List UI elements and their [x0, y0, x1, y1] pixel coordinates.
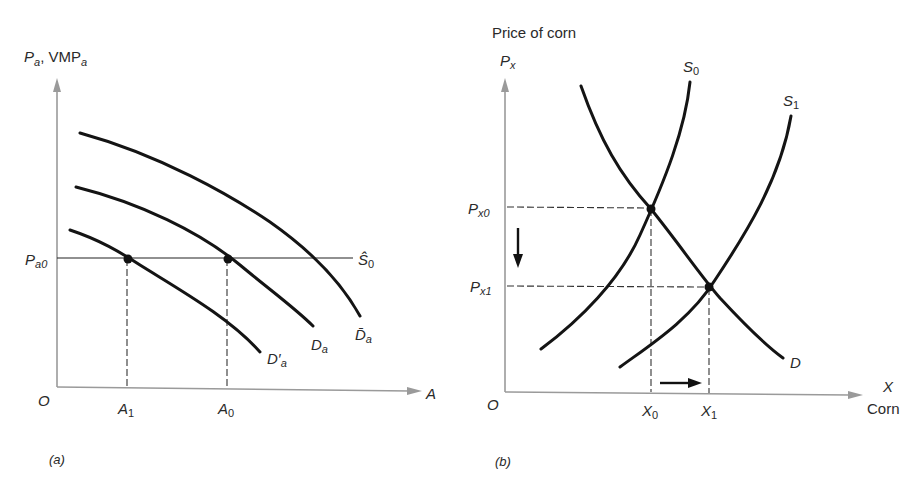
x-axis-b [505, 392, 850, 395]
s0-hat-label: Ŝ0 [358, 251, 374, 270]
a0-label: A0 [217, 400, 234, 419]
y-axis-arrow-icon [501, 78, 509, 92]
supply-curve-s1 [620, 116, 791, 367]
caption-a: (a) [49, 452, 65, 467]
dprime-a-label: D′a [267, 350, 287, 369]
origin-label-b: O [487, 396, 499, 413]
equilibrium-dot-initial [647, 205, 656, 214]
x-axis-label-b: X [882, 378, 894, 395]
pa0-label: Pa0 [25, 251, 48, 270]
demand-curve-da [76, 187, 313, 326]
y-axis-arrow-icon [53, 78, 61, 92]
y-axis-label-a: Pa, VMPa [24, 48, 87, 68]
arrow-right-icon [688, 378, 702, 388]
d-label: D [790, 354, 801, 371]
equilibrium-dot-a1 [124, 255, 133, 264]
caption-b: (b) [495, 454, 511, 469]
chart-title-b: Price of corn [492, 24, 576, 41]
demand-curve-dbar-a [80, 133, 360, 316]
px0-label: Px0 [468, 200, 491, 219]
panel-a: Pa, VMPa Pa0 Ŝ0 D̄a Da D′a O A1 A0 A (a) [24, 48, 436, 467]
demand-curve-dprime-a [70, 230, 260, 352]
x-axis-arrow-icon [407, 387, 422, 395]
px1-label: Px1 [470, 278, 492, 297]
equilibrium-dot-a0 [224, 255, 233, 264]
x1-label: X1 [700, 402, 717, 421]
x-axis-label-a: A [425, 385, 436, 402]
origin-label-a: O [38, 392, 50, 409]
dbar-a-label: D̄a [355, 326, 372, 345]
panel-b: Price of corn Px S0 S1 Px0 Px1 D O X0 X1… [468, 24, 900, 469]
equilibrium-dot-new [705, 283, 714, 292]
s0-label: S0 [683, 58, 699, 77]
x0-label: X0 [641, 402, 658, 421]
x-axis-a [57, 387, 410, 391]
da-label: Da [311, 336, 328, 355]
a1-label: A1 [117, 400, 134, 419]
y-axis-label-b: Px [500, 52, 516, 71]
supply-curve-s0 [541, 82, 690, 349]
figure: Pa, VMPa Pa0 Ŝ0 D̄a Da D′a O A1 A0 A (a) [0, 0, 920, 480]
x-axis-sublabel-b: Corn [867, 400, 900, 417]
s1-label: S1 [783, 92, 799, 111]
x-axis-arrow-icon [848, 391, 863, 399]
arrow-down-icon [513, 254, 523, 268]
px0-guide [507, 207, 651, 208]
